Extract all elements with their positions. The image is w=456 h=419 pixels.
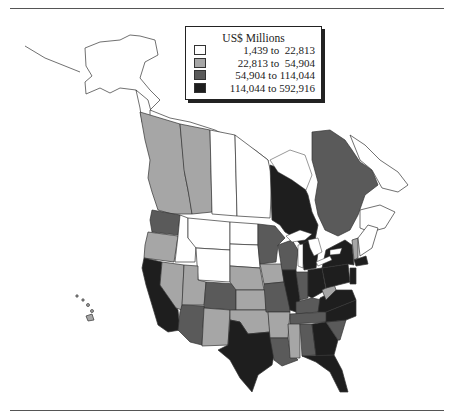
legend-label: 114,044 to 592,916 bbox=[212, 82, 321, 94]
legend-label: 54,904 to 114,044 bbox=[212, 69, 321, 81]
region-mississippi bbox=[288, 324, 300, 358]
region-hawaii bbox=[76, 295, 94, 321]
region-wyoming bbox=[196, 248, 230, 282]
region-wisconsin bbox=[278, 240, 298, 270]
legend-swatch-dark-gray bbox=[194, 70, 206, 80]
region-aleutians bbox=[25, 46, 80, 72]
legend-row: 114,044 to 592,916 bbox=[186, 82, 321, 95]
region-arizona bbox=[178, 305, 204, 345]
region-saskatchewan bbox=[210, 130, 237, 216]
region-oregon bbox=[144, 232, 178, 262]
region-north-dakota bbox=[230, 222, 258, 245]
region-montana bbox=[188, 218, 230, 250]
legend: US$ Millions 1,439 to 22,813 22,813 to 5… bbox=[185, 26, 322, 100]
legend-label: 1,439 to 22,813 bbox=[212, 44, 321, 56]
bottom-rule bbox=[10, 410, 444, 411]
legend-row: 1,439 to 22,813 bbox=[186, 44, 321, 57]
region-colorado bbox=[204, 282, 236, 310]
legend-swatch-light-gray bbox=[194, 58, 206, 68]
region-new-jersey bbox=[350, 268, 356, 284]
region-florida bbox=[302, 355, 348, 392]
legend-title: US$ Millions bbox=[186, 32, 321, 44]
region-iowa bbox=[260, 264, 284, 284]
region-new-hampshire-maine bbox=[358, 225, 378, 256]
region-alaska bbox=[85, 35, 160, 110]
legend-label: 22,813 to 54,904 bbox=[212, 57, 321, 69]
region-south-dakota bbox=[230, 244, 260, 268]
legend-swatch-black bbox=[194, 83, 206, 93]
legend-swatch-white bbox=[194, 45, 206, 55]
legend-row: 22,813 to 54,904 bbox=[186, 57, 321, 70]
lake-michigan bbox=[298, 244, 303, 268]
region-nebraska bbox=[230, 266, 264, 290]
legend-row: 54,904 to 114,044 bbox=[186, 69, 321, 82]
region-new-mexico bbox=[202, 308, 230, 346]
region-manitoba bbox=[235, 135, 272, 218]
region-arkansas bbox=[268, 312, 290, 338]
region-kansas bbox=[236, 290, 266, 310]
